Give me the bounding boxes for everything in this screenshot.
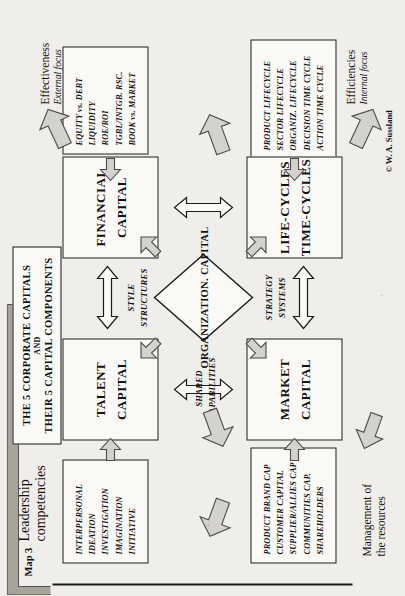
arrow-talent-components [96,436,122,462]
talent-component-2: INVESTIGATION [98,488,111,554]
arrow-diamond-to-financial [134,230,164,260]
figure-subtitle: Leadership competencies [16,465,47,541]
organization-capital-diamond: ORGANIZATION. CAPITAL [152,252,254,342]
lifecycle-components-box: PRODUCT LIFECYCLE SECTOR LIFECYCLE ORGAN… [250,39,336,159]
capital-market-line1: MARKET [273,358,294,420]
capital-market-line2: CAPITAL [294,358,315,419]
scan-speck [120,74,122,76]
organization-capital-line2: CAPITAL [198,226,209,275]
copyright-notice: © W. A. Sussland [383,110,393,172]
efficiencies-label: Efficiencies Internal focus [344,49,369,104]
page-edge-rule [52,584,352,586]
figure-subtitle-line1: Leadership [16,465,32,541]
lifecycle-component-0: PRODUCT LIFECYCLE [260,60,273,150]
arrow-diamond-to-lifecycles [242,230,272,260]
axis-arrow-financial-lifecycles [172,194,234,220]
title-line1: THE 5 CORPORATE CAPITALS [20,256,31,434]
capital-talent-line1: TALENT [89,361,110,417]
efficiencies-title: Efficiencies [344,49,358,104]
talent-component-3: IMAGINATION [112,496,125,554]
effectiveness-label: Effectiveness External focus [38,42,63,104]
market-component-2: SUPPLIER/ALLIES CAP [286,462,299,554]
arrow-to-effectiveness [36,104,76,150]
arrow-diamond-to-market [242,334,272,364]
management-line2: the resources [374,484,388,557]
scan-speck [380,294,382,296]
financial-component-2: ROE/ROI [98,110,111,145]
talent-component-0: INTERPERSONAL [72,484,85,554]
arrow-market-components [280,436,306,462]
talent-component-4: INITIATIVE [125,507,138,554]
lifecycle-component-4: ACTION TIME CYCLE [313,64,326,150]
arrow-diamond-to-talent [134,334,164,364]
efficiencies-sub: Internal focus [358,49,369,104]
market-component-0: PRODUCT BRAND CAP [260,464,273,554]
effectiveness-title: Effectiveness [38,42,52,104]
effectiveness-sub: External focus [52,42,63,104]
axis-style-line1: STYLE [124,264,137,330]
market-component-4: SHAREHOLDERS [313,486,326,554]
arrow-efficiencies-out [196,496,236,540]
axis-strategy-line1: STRATEGY [262,264,275,330]
lifecycle-component-3: DECISION TIME CYCLE [300,55,313,150]
arrow-management-of-resources [352,410,388,452]
capital-talent-line2: CAPITAL [110,358,131,419]
financial-component-3: TGBL/INTGB. RSC. [112,71,125,145]
lifecycle-component-1: SECTOR LIFECYCLE [273,68,286,150]
figure-page: Map 3 Leadership competencies THE 5 CORP… [0,0,405,596]
capital-financial-line2: CAPITAL [110,176,131,237]
axis-label-strategy-systems: STRATEGY SYSTEMS [262,264,289,330]
market-component-1: CUSTOMER CAPITAL [273,470,286,554]
financial-component-4: BOOK vs. MARKET [125,72,138,145]
arrow-lifecycle-components [280,156,306,182]
lifecycle-component-2: ORGANIZ. LIFECYCLE [286,60,299,150]
axis-strategy-line2: SYSTEMS [275,264,288,330]
arrow-efficiencies [196,406,236,450]
arrow-effectiveness [196,110,236,156]
talent-components-box: INTERPERSONAL IDEATION INVESTIGATION IMA… [62,459,148,563]
scan-speck [206,523,209,526]
axis-label-style-structures: STYLE STRUCTURES [124,264,151,330]
axis-style-line2: STRUCTURES [137,264,150,330]
organization-capital-text: ORGANIZATION. CAPITAL [152,252,254,342]
figure-subtitle-line2: competencies [32,465,48,541]
market-component-3: COMMUNITIES CAP. [300,473,313,554]
axis-arrow-style-structures [94,264,120,330]
market-components-box: PRODUCT BRAND CAP CUSTOMER CAPITAL SUPPL… [250,447,336,563]
arrow-financial-components [96,156,122,182]
management-line1: Management of [360,484,374,557]
management-of-resources-label: Management of the resources [360,484,388,557]
financial-component-1: LIQUIDITY [85,101,98,145]
talent-component-1: IDEATION [85,513,98,554]
title-line2: AND [32,256,41,434]
title-box: THE 5 CORPORATE CAPITALS AND THEIR 5 CAP… [12,246,61,444]
axis-arrow-strategy-systems [290,264,316,330]
rotated-figure-canvas: Map 3 Leadership competencies THE 5 CORP… [0,0,405,596]
title-line3: THEIR 5 CAPITAL COMPONENTS [42,256,53,434]
arrow-to-efficiencies [344,104,384,150]
map-number: Map 3 [22,547,33,576]
